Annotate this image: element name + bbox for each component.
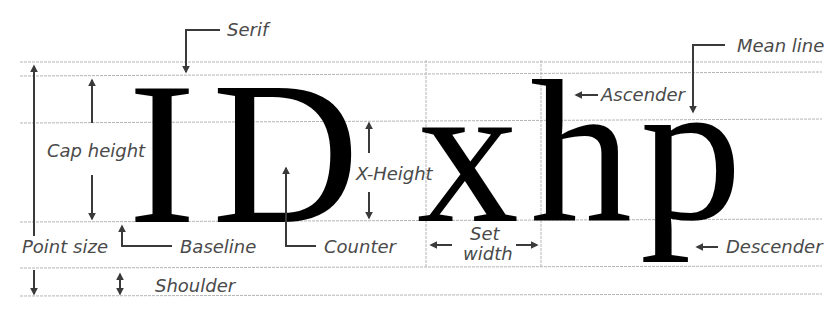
cap-height-label: Cap height [47, 140, 146, 161]
descender-label: Descender [726, 236, 824, 257]
counter-label: Counter [324, 236, 398, 257]
mean-line-label: Mean line [737, 35, 824, 56]
x-height-label: X-Height [355, 163, 434, 184]
serif-label: Serif [227, 19, 271, 40]
ascender-label: Ascender [600, 84, 687, 105]
shoulder-label: Shoulder [155, 275, 237, 296]
set-width-label-line1: Set [470, 223, 501, 244]
set-width-label-line2: width [463, 243, 513, 264]
point-size-label: Point size [22, 236, 108, 257]
bottom-line [20, 294, 822, 296]
type-anatomy-diagram: I D x h p Serif Mean line [0, 0, 835, 314]
specimen-glyphs: I D x h p [128, 37, 742, 266]
glyph-p: p [640, 37, 742, 263]
glyph-h: h [530, 38, 632, 264]
descender-line [20, 266, 822, 268]
baseline-label: Baseline [180, 236, 256, 257]
glyph-x: x [417, 39, 519, 265]
